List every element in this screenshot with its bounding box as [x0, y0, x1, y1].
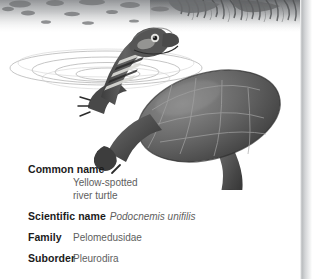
- common-name-label: Common name: [28, 163, 278, 176]
- turtle-illustration: [0, 0, 302, 190]
- scientific-name-value: Podocnemis unifilis: [110, 211, 196, 222]
- scientific-name-label: Scientific name: [28, 210, 106, 222]
- common-name-value-line-1: Yellow-spotted: [28, 176, 278, 189]
- family-label: Family: [28, 230, 73, 245]
- suborder-value: Pleurodira: [73, 251, 119, 266]
- turtle-fact-panel: Common name Yellow-spotted river turtle …: [0, 0, 315, 279]
- page-edge: [300, 0, 312, 279]
- family-value: Pelomedusidae: [73, 230, 142, 245]
- fact-row-family: FamilyPelomedusidae: [28, 228, 278, 245]
- suborder-label: Suborder: [28, 251, 73, 266]
- species-fact-list: Common name Yellow-spotted river turtle …: [28, 163, 278, 270]
- fact-row-suborder: SuborderPleurodira: [28, 249, 278, 266]
- common-name-value-line-2: river turtle: [28, 189, 278, 202]
- fact-row-common-name: Common name Yellow-spotted river turtle: [28, 163, 278, 202]
- fact-row-scientific-name: Scientific namePodocnemis unifilis: [28, 207, 278, 224]
